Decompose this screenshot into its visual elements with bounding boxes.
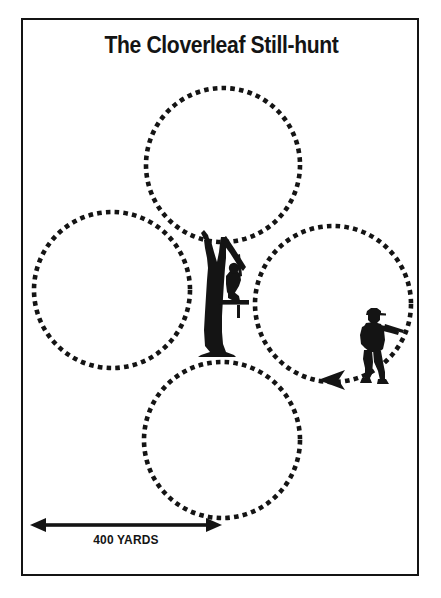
scale-bar [30, 518, 222, 532]
scale-bar-label: 400 YARDS [30, 532, 221, 548]
tree-stand-icon [198, 230, 249, 357]
cloverleaf-diagram [0, 0, 441, 598]
loop-west [34, 212, 190, 368]
travel-direction-arrow [318, 370, 345, 390]
loop-east [255, 226, 411, 382]
poster-page: The Cloverleaf Still-hunt [0, 0, 441, 598]
loop-south [144, 362, 300, 518]
loop-north [146, 88, 300, 242]
